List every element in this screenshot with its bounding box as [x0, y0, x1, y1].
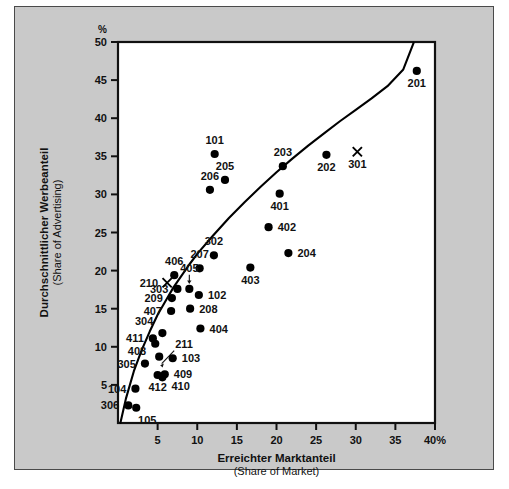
marker-dot-icon [413, 67, 421, 75]
point-label: 104 [108, 383, 127, 395]
plot-area [118, 42, 435, 423]
figure-container: 5101520253035404550%510152025303540% 201… [0, 0, 509, 489]
point-label: 301 [348, 158, 366, 170]
figure-caption [18, 474, 488, 486]
point-label: 405 [180, 262, 198, 274]
marker-dot-icon [279, 162, 287, 170]
marker-dot-icon [246, 263, 254, 271]
y-tick-label: 15 [95, 303, 107, 315]
point-label: 211 [175, 338, 193, 350]
x-tick-label: 20 [270, 434, 282, 446]
y-tick-label: 30 [95, 188, 107, 200]
scatter-plot: 5101520253035404550%510152025303540% 201… [0, 0, 509, 489]
point-label: 210 [140, 277, 158, 289]
y-axis-subtitle: (Share of Advertising) [51, 180, 63, 286]
marker-dot-icon [196, 324, 204, 332]
marker-dot-icon [141, 359, 149, 367]
x-tick-label: 10 [191, 434, 203, 446]
point-label: 409 [174, 368, 192, 380]
point-label: 403 [241, 274, 259, 286]
point-label: 201 [408, 77, 426, 89]
point-label: 203 [274, 146, 292, 158]
point-label: 202 [317, 161, 335, 173]
marker-dot-icon [131, 385, 139, 393]
point-label: 102 [208, 289, 226, 301]
marker-dot-icon [264, 223, 272, 231]
marker-dot-icon [221, 176, 229, 184]
marker-dot-icon [155, 353, 163, 361]
point-label: 305 [117, 358, 135, 370]
point-label: 412 [148, 381, 166, 393]
x-tick-label: 25 [310, 434, 322, 446]
point-label: 404 [210, 323, 229, 335]
point-label: 402 [278, 221, 296, 233]
point-label: 401 [270, 200, 288, 212]
marker-dot-icon [168, 294, 176, 302]
x-tick-label: 40% [424, 434, 446, 446]
marker-dot-icon [173, 285, 181, 293]
marker-dot-icon [154, 371, 162, 379]
x-tick-label: 5 [155, 434, 161, 446]
marker-dot-icon [158, 329, 166, 337]
point-label: 304 [135, 315, 154, 327]
x-tick-label: 35 [389, 434, 401, 446]
marker-dot-icon [185, 285, 193, 293]
marker-dot-icon [276, 190, 284, 198]
y-tick-label: 5 [101, 379, 107, 391]
x-tick-label: 30 [350, 434, 362, 446]
marker-dot-icon [151, 340, 159, 348]
marker-dot-icon [186, 305, 194, 313]
point-label: 207 [190, 248, 208, 260]
point-label: 209 [144, 292, 162, 304]
y-tick-label: 25 [95, 227, 107, 239]
point-label: 103 [182, 352, 200, 364]
y-tick-label: 40 [95, 112, 107, 124]
y-tick-label: 45 [95, 74, 107, 86]
marker-dot-icon [211, 150, 219, 158]
point-label: 410 [171, 380, 189, 392]
y-unit-symbol: % [98, 24, 107, 35]
marker-dot-icon [322, 151, 330, 159]
point-label: 101 [206, 134, 224, 146]
point-label: 306 [101, 399, 119, 411]
point-label: 105 [138, 414, 156, 426]
marker-dot-icon [169, 354, 177, 362]
y-tick-label: 10 [95, 341, 107, 353]
marker-dot-icon [195, 291, 203, 299]
marker-dot-icon [132, 404, 140, 412]
marker-dot-icon [210, 251, 218, 259]
point-label: 204 [297, 247, 316, 259]
y-tick-label: 20 [95, 265, 107, 277]
marker-dot-icon [206, 186, 214, 194]
point-label: 206 [201, 170, 219, 182]
x-tick-label: 15 [231, 434, 243, 446]
y-tick-label: 35 [95, 150, 107, 162]
marker-dot-icon [167, 307, 175, 315]
y-tick-label: 50 [95, 36, 107, 48]
point-label: 408 [128, 345, 146, 357]
x-axis-title: Erreichter Marktanteil [217, 452, 335, 464]
point-label: 208 [199, 303, 217, 315]
point-label: 411 [126, 332, 144, 344]
marker-dot-icon [124, 401, 132, 409]
marker-dot-icon [284, 249, 292, 257]
point-label: 302 [205, 235, 223, 247]
y-axis-title: Durchschnittlicher Werbeanteil [38, 148, 50, 318]
